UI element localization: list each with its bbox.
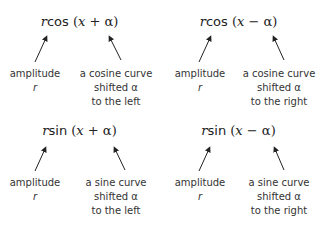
shift-label: a cosine curve shifted α to the right <box>237 67 318 109</box>
shift-label: a cosine curve shifted α to the left <box>74 67 158 109</box>
amplitude-label: amplitude r <box>6 176 64 204</box>
label-line: amplitude <box>171 176 229 190</box>
amplitude-label: amplitude r <box>171 67 229 95</box>
arrow-to-amplitude-icon <box>35 38 46 62</box>
label-line: shifted α <box>74 81 158 95</box>
amplitude-label: amplitude r <box>6 67 64 95</box>
amplitude-label: amplitude r <box>171 176 229 204</box>
label-line: a cosine curve <box>237 67 318 81</box>
label-line: r <box>171 190 229 204</box>
label-line: to the right <box>237 204 318 218</box>
label-line: r <box>6 190 64 204</box>
label-line: shifted α <box>237 81 318 95</box>
arrow-to-shift-icon <box>275 149 284 170</box>
formula-block-rcos-minus: rcos (x − α) amplitude r a cosine curve … <box>159 0 318 113</box>
formula-block-rsin-minus: rsin (x − α) amplitude r a sine curve sh… <box>159 113 318 226</box>
label-line: amplitude <box>6 67 64 81</box>
formula-block-rcos-plus: rcos (x + α) amplitude r a cosine curve … <box>0 0 159 113</box>
arrow-to-shift-icon <box>274 38 284 60</box>
label-line: a sine curve <box>74 176 158 190</box>
formula-block-rsin-plus: rsin (x + α) amplitude r a sine curve sh… <box>0 113 159 226</box>
label-line: amplitude <box>6 176 64 190</box>
arrow-to-amplitude-icon <box>199 38 210 62</box>
label-line: to the left <box>74 204 158 218</box>
shift-label: a sine curve shifted α to the left <box>74 176 158 218</box>
label-line: to the right <box>237 95 318 109</box>
label-line: to the left <box>74 95 158 109</box>
arrow-to-shift-icon <box>115 149 125 170</box>
arrow-to-amplitude-icon <box>35 149 45 171</box>
label-line: amplitude <box>171 67 229 81</box>
shift-label: a sine curve shifted α to the right <box>237 176 318 218</box>
label-line: a sine curve <box>237 176 318 190</box>
arrow-to-amplitude-icon <box>199 149 209 171</box>
label-line: r <box>6 81 64 95</box>
arrow-to-shift-icon <box>110 38 121 60</box>
label-line: shifted α <box>237 190 318 204</box>
label-line: a cosine curve <box>74 67 158 81</box>
label-line: r <box>171 81 229 95</box>
label-line: shifted α <box>74 190 158 204</box>
